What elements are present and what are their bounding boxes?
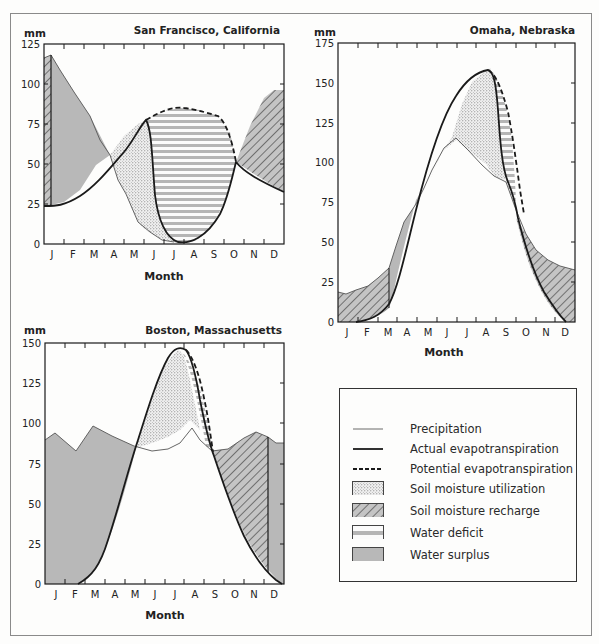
sf-ytick-50: 50 [27, 159, 40, 170]
sf-month-mar: M [90, 249, 99, 260]
sf-ytick-0: 0 [34, 239, 40, 250]
boston-month-aug: A [192, 589, 199, 600]
sf-surplus-region [51, 55, 110, 205]
boston-surplus-region-spring [45, 426, 136, 584]
omaha-ytick-125: 125 [315, 118, 334, 129]
sf-ytick-25: 25 [27, 199, 40, 210]
boston-ytick-100: 100 [22, 418, 41, 429]
omaha-month-labels: J F M A M J J A S O N D [345, 327, 570, 338]
omaha-recharge-region-winter [338, 268, 389, 322]
legend-label: Water deficit [410, 526, 483, 540]
omaha-ytick-100: 100 [315, 157, 334, 168]
sf-month-feb: F [70, 249, 76, 260]
thick-line-icon [352, 442, 384, 456]
sf-y-tick-labels: 0 25 50 75 100 125 [21, 39, 40, 250]
sf-ytick-100: 100 [21, 79, 40, 90]
boston-y-tick-labels: 0 25 50 75 100 125 150 [22, 338, 41, 590]
boston-month-oct: O [231, 589, 239, 600]
thin-line-icon [352, 422, 384, 436]
omaha-ytick-75: 75 [321, 197, 334, 208]
boston-ytick-25: 25 [28, 539, 41, 550]
omaha-month-jun: J [445, 327, 449, 338]
boston-month-mar: M [91, 589, 100, 600]
omaha-month-feb: F [364, 327, 370, 338]
omaha-recharge-region-autumn [516, 218, 575, 322]
sf-month-apr: A [111, 249, 118, 260]
dashed-line-icon [352, 462, 384, 476]
omaha-unit-label: mm [314, 26, 336, 38]
sf-month-sep: S [211, 249, 217, 260]
sf-recharge-region-nov-dec [236, 90, 284, 192]
sf-title: San Francisco, California [134, 24, 280, 36]
boston-surplus-region-dec [268, 437, 284, 584]
sf-recharge-region-jan [44, 55, 51, 205]
omaha-ytick-50: 50 [321, 237, 334, 248]
hatch-swatch-icon [352, 503, 384, 517]
boston-ytick-75: 75 [28, 459, 41, 470]
boston-month-may: M [131, 589, 140, 600]
sf-ytick-125: 125 [21, 39, 40, 50]
sf-month-may: M [130, 249, 139, 260]
omaha-month-nov: N [542, 327, 549, 338]
legend-label: Precipitation [410, 422, 482, 436]
boston-ytick-0: 0 [35, 579, 41, 590]
omaha-ytick-175: 175 [315, 38, 334, 49]
omaha-title: Omaha, Nebraska [470, 24, 575, 36]
omaha-utilization-region [428, 68, 506, 184]
boston-title: Boston, Massachusetts [145, 324, 282, 336]
legend-label: Water surplus [410, 548, 489, 562]
omaha-month-apr: A [404, 327, 411, 338]
omaha-ytick-0: 0 [328, 317, 334, 328]
omaha-month-aug: A [483, 327, 490, 338]
boston-ytick-150: 150 [22, 338, 41, 349]
gray-swatch-icon [352, 547, 384, 561]
omaha-month-may: M [424, 327, 433, 338]
boston-month-sep: S [212, 589, 218, 600]
legend: Precipitation Actual evapotranspiration … [339, 388, 577, 582]
legend-label: Soil moisture recharge [410, 504, 540, 518]
sf-month-oct: O [230, 249, 238, 260]
sf-unit-label: mm [24, 27, 46, 39]
boston-ytick-50: 50 [28, 499, 41, 510]
sf-x-axis-label: Month [144, 270, 183, 283]
omaha-month-sep: S [503, 327, 509, 338]
chart-boston: mm Boston, Massachusetts 0 25 50 75 100 … [22, 324, 284, 622]
omaha-month-mar: M [384, 327, 393, 338]
boston-month-jul: J [173, 589, 177, 600]
stripe-swatch-icon [352, 525, 384, 539]
boston-month-dec: D [270, 589, 278, 600]
sf-ytick-75: 75 [27, 119, 40, 130]
omaha-y-tick-labels: 0 25 50 75 100 125 150 175 [315, 38, 334, 328]
legend-label: Actual evapotranspiration [410, 442, 559, 456]
legend-label: Soil moisture utilization [410, 482, 545, 496]
boston-x-axis-label: Month [145, 609, 184, 622]
boston-month-nov: N [250, 589, 257, 600]
sf-month-aug: A [191, 249, 198, 260]
boston-month-jan: J [54, 589, 58, 600]
sf-month-jan: J [50, 249, 54, 260]
boston-month-labels: J F M A M J J A S O N D [54, 589, 279, 600]
sf-month-dec: D [270, 249, 278, 260]
stipple-swatch-icon [352, 481, 384, 495]
boston-month-apr: A [112, 589, 119, 600]
omaha-month-jan: J [345, 327, 349, 338]
omaha-month-dec: D [561, 327, 569, 338]
sf-month-nov: N [250, 249, 257, 260]
sf-month-jun: J [152, 249, 156, 260]
omaha-month-jul: J [465, 327, 469, 338]
omaha-x-axis-label: Month [424, 346, 463, 359]
sf-month-jul: J [172, 249, 176, 260]
omaha-month-oct: O [522, 327, 530, 338]
boston-unit-label: mm [24, 324, 46, 336]
boston-ytick-125: 125 [22, 378, 41, 389]
boston-month-jun: J [153, 589, 157, 600]
boston-month-feb: F [72, 589, 78, 600]
omaha-ytick-150: 150 [315, 78, 334, 89]
chart-omaha: mm Omaha, Nebraska 0 25 50 75 100 125 15… [314, 24, 575, 359]
sf-month-labels: J F M A M J J A S O N D [50, 249, 279, 260]
legend-label: Potential evapotranspiration [410, 462, 573, 476]
chart-san-francisco: mm San Francisco, California 0 25 50 75 … [21, 24, 284, 283]
omaha-ytick-25: 25 [321, 277, 334, 288]
boston-recharge-region [212, 432, 268, 570]
